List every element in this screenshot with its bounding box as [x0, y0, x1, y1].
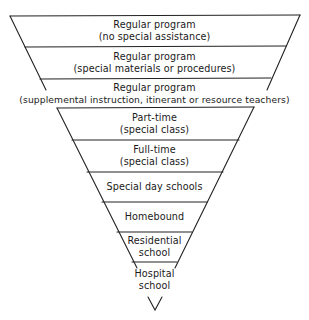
divider-1 [25, 46, 286, 47]
divider-2 [40, 78, 271, 79]
divider-top [10, 15, 300, 16]
level-label-9: Hospital school [0, 268, 309, 292]
bottom-tip-icon [148, 297, 162, 310]
level-label-2: Regular program (special materials or pr… [0, 51, 309, 75]
divider-3 [57, 107, 254, 108]
level-label-1: Regular program (no special assistance) [0, 19, 309, 43]
level-label-7: Homebound [0, 211, 309, 223]
level-label-8: Residential school [0, 235, 309, 259]
level-label-5: Full-time (special class) [0, 144, 309, 168]
level-label-6: Special day schools [0, 181, 309, 193]
level-label-3: Regular program (supplemental instructio… [0, 82, 309, 106]
level-label-4: Part-time (special class) [0, 112, 309, 136]
